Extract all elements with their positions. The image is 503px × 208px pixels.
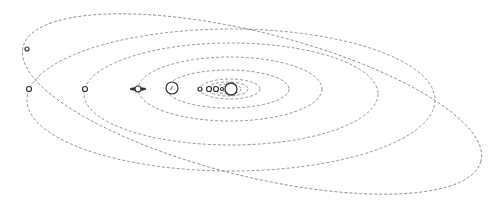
saturn-icon (130, 86, 146, 92)
sun-icon (225, 83, 237, 95)
jupiter-icon (166, 82, 178, 94)
saturn-body (135, 86, 141, 92)
uranus-icon (83, 87, 88, 92)
orbit-group (6, 0, 499, 208)
pluto-icon (25, 47, 29, 51)
orbit-canvas (0, 0, 503, 208)
earth-icon (207, 87, 212, 92)
body-group (25, 47, 237, 95)
mars-icon (198, 87, 202, 91)
neptune-icon (27, 87, 32, 92)
solar-system-diagram (0, 0, 503, 208)
neptune-orbit (27, 29, 435, 171)
mercury-icon (221, 88, 224, 91)
pluto-orbit (6, 0, 499, 208)
venus-icon (214, 87, 219, 92)
